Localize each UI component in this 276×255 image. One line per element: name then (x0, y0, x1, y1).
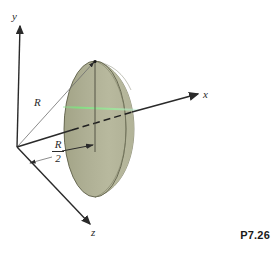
disk-top-vertex-dot (93, 60, 96, 63)
half-radius-numerator: R (51, 139, 65, 150)
problem-number-tag: P7.26 (240, 229, 270, 241)
half-radius-leader-line (30, 157, 52, 163)
x-axis-label: x (203, 88, 208, 100)
half-radius-denominator: 2 (51, 153, 65, 164)
z-axis-label: z (91, 226, 95, 238)
y-axis-label: y (12, 10, 17, 22)
radius-label: R (34, 96, 41, 108)
half-radius-label: R 2 (51, 139, 65, 164)
y-axis-line (17, 26, 20, 147)
figure-container: y x z R R 2 P7.26 (0, 0, 276, 255)
x-axis-segment-far (132, 94, 198, 112)
coordinate-system-diagram (0, 0, 276, 255)
